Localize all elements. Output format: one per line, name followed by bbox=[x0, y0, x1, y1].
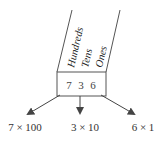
label-tens: Tens bbox=[79, 48, 94, 69]
expansion-ones: 6 × 1 bbox=[132, 121, 155, 133]
label-ones: Ones bbox=[93, 45, 109, 69]
arrow-hundreds bbox=[28, 95, 60, 114]
expansion-tens: 3 × 10 bbox=[71, 121, 99, 133]
digit-ones: 6 bbox=[90, 79, 96, 91]
digit-hundreds: 7 bbox=[66, 79, 72, 91]
column-right-edge bbox=[106, 10, 120, 72]
expansion-hundreds: 7 × 100 bbox=[8, 121, 42, 133]
arrow-ones bbox=[101, 95, 134, 114]
digit-tens: 3 bbox=[78, 79, 84, 91]
